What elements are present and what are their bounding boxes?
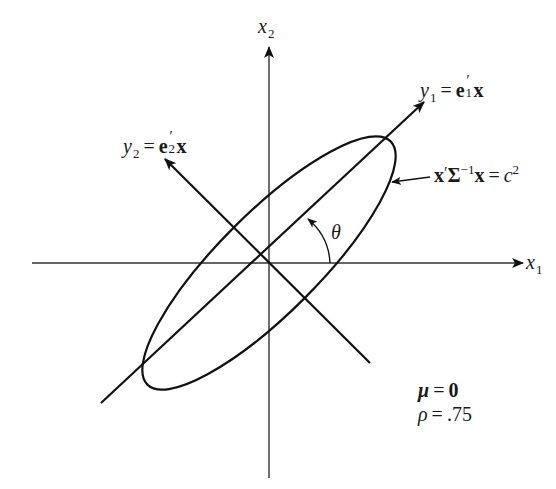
- ellipse-c: c: [504, 164, 513, 186]
- ellipse-leader-arrow: [392, 177, 430, 182]
- ellipse-sigma: Σ: [448, 164, 461, 186]
- mu-equals: =: [433, 379, 444, 401]
- theta-label: θ: [331, 222, 341, 242]
- ellipse-prime: ′: [444, 164, 448, 181]
- y2-base: y: [123, 135, 132, 157]
- x2-base: x: [258, 15, 267, 37]
- ellipse-equals: =: [488, 164, 499, 186]
- mu-parameter: μ=0: [418, 380, 458, 400]
- y2-equals: =: [143, 135, 154, 157]
- ellipse-sigma-exponent: −1: [461, 162, 475, 177]
- y2-eigenvector-scripts: ′2: [168, 133, 177, 153]
- y2-eigenvector: e: [159, 135, 168, 157]
- rho-parameter: ρ=.75: [418, 404, 472, 424]
- y2-subscript: 2: [133, 146, 140, 161]
- ellipse-lhs-x: x: [434, 164, 444, 186]
- x1-axis-label: x1: [526, 252, 542, 272]
- y2-variable: x: [177, 135, 187, 157]
- y2-label: y2=e′2x: [123, 133, 187, 156]
- rho-value: .75: [447, 403, 472, 425]
- ellipse-diagram: [0, 0, 556, 489]
- x1-base: x: [526, 251, 535, 273]
- x2-subscript: 2: [268, 26, 275, 41]
- y1-label: y1=e′1x: [420, 77, 484, 100]
- x2-axis-label: x2: [258, 16, 274, 36]
- x1-subscript: 1: [536, 262, 543, 277]
- rho-symbol: ρ: [418, 403, 428, 425]
- y1-eigenvector-scripts: ′1: [465, 77, 474, 97]
- y1-base: y: [420, 79, 429, 101]
- ellipse-equation-label: x′Σ−1x=c2: [434, 165, 519, 185]
- theta-symbol: θ: [331, 221, 341, 243]
- y1-equals: =: [440, 79, 451, 101]
- y2-eigenvector-index: 2: [169, 142, 176, 155]
- mu-value: 0: [448, 379, 458, 401]
- y1-eigenvector: e: [456, 79, 465, 101]
- mu-symbol: μ: [418, 379, 429, 401]
- y1-eigenvector-index: 1: [466, 86, 473, 99]
- theta-angle-arc: [308, 219, 330, 263]
- y1-subscript: 1: [430, 90, 437, 105]
- rho-equals: =: [432, 403, 443, 425]
- ellipse-rhs-x: x: [474, 164, 484, 186]
- ellipse-c-exponent: 2: [513, 162, 520, 177]
- y1-variable: x: [474, 79, 484, 101]
